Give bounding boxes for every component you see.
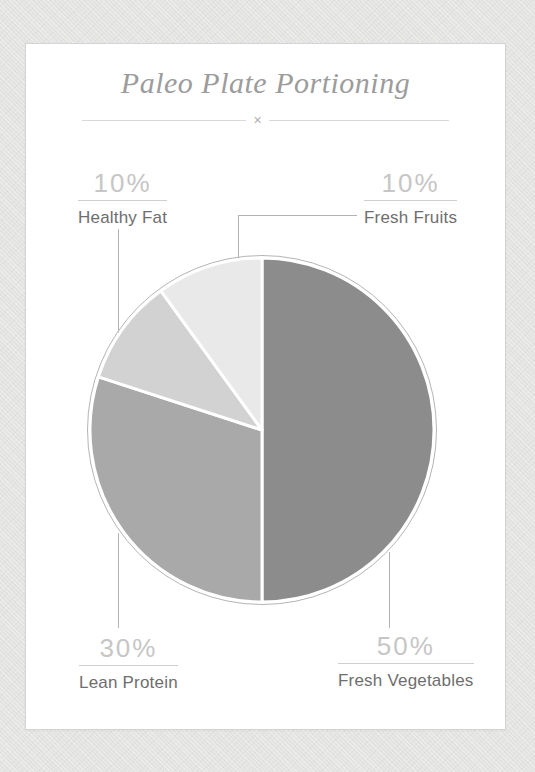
slice-label-fresh-fruits: Fresh Fruits: [364, 208, 457, 227]
chart-title: Paleo Plate Portioning: [26, 64, 505, 102]
divider-x-icon: ×: [253, 114, 261, 126]
divider-line-left: [82, 120, 246, 121]
percent-underline-healthy-fat: [78, 200, 167, 201]
page-background: Paleo Plate Portioning × 10% Healthy Fat…: [0, 0, 535, 772]
callout-fresh-vegetables: 50% Fresh Vegetables: [338, 632, 474, 690]
pie-chart: [86, 254, 438, 606]
percent-underline-fresh-vegetables: [338, 663, 474, 664]
callout-fresh-fruits: 10% Fresh Fruits: [364, 169, 457, 227]
divider-line-right: [269, 120, 449, 121]
percent-value-fresh-vegetables: 50%: [338, 632, 474, 660]
info-card: Paleo Plate Portioning × 10% Healthy Fat…: [25, 43, 506, 730]
pie-slice-fresh-vegetables: [262, 258, 434, 602]
callout-healthy-fat: 10% Healthy Fat: [78, 169, 167, 227]
title-divider: ×: [26, 114, 505, 126]
slice-label-healthy-fat: Healthy Fat: [78, 208, 167, 227]
percent-underline-lean-protein: [79, 665, 178, 666]
slice-label-lean-protein: Lean Protein: [79, 673, 178, 692]
slice-label-fresh-vegetables: Fresh Vegetables: [338, 671, 474, 690]
percent-value-fresh-fruits: 10%: [364, 169, 457, 197]
percent-underline-fresh-fruits: [364, 200, 457, 201]
callout-lean-protein: 30% Lean Protein: [79, 634, 178, 692]
percent-value-healthy-fat: 10%: [78, 169, 167, 197]
percent-value-lean-protein: 30%: [79, 634, 178, 662]
